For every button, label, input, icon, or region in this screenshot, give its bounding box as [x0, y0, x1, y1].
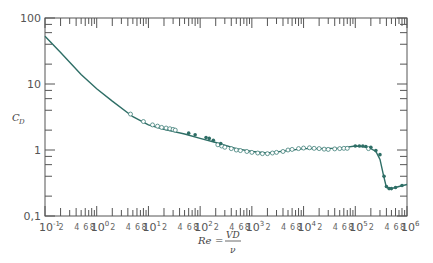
x-minor-tick-label: 6: [83, 223, 88, 232]
x-minor-tick-label: 4: [333, 223, 338, 232]
x-minor-tick-label: 4: [384, 223, 389, 232]
solid-data-point: [364, 145, 368, 149]
x-tick-label: 10-1: [39, 220, 60, 234]
open-data-point: [312, 146, 316, 150]
open-data-point: [245, 149, 249, 153]
open-data-point: [297, 147, 301, 151]
open-data-point: [260, 152, 264, 156]
x-minor-tick-label: 4: [178, 223, 183, 232]
open-data-point: [128, 112, 132, 116]
x-minor-tick-label: 4: [74, 223, 79, 232]
solid-data-point: [400, 184, 404, 188]
open-data-point: [156, 124, 160, 128]
x-minor-tick-label: 2: [317, 223, 322, 232]
y-tick-label: 10: [27, 78, 41, 91]
open-data-point: [256, 151, 260, 155]
x-minor-tick-label: 2: [369, 223, 374, 232]
open-data-point: [307, 146, 311, 150]
open-data-point: [302, 146, 306, 150]
plot-area: [45, 36, 407, 190]
x-tick-label: 103: [246, 220, 264, 234]
open-data-point: [275, 150, 279, 154]
x-tick-label: 106: [401, 220, 420, 234]
open-data-point: [333, 147, 337, 151]
x-tick-label: 104: [298, 220, 317, 234]
x-tick-label: 102: [194, 220, 212, 234]
open-data-point: [173, 128, 177, 132]
drag-curve: [45, 36, 407, 188]
x-tick-label: 100: [91, 220, 109, 234]
x-minor-tick-label: 4: [281, 223, 286, 232]
svg-text:VD: VD: [226, 230, 240, 240]
solid-data-point: [353, 144, 357, 148]
open-data-point: [322, 147, 326, 151]
solid-data-point: [390, 187, 394, 191]
y-tick-label: 0,1: [24, 210, 42, 223]
x-minor-tick-label: 2: [110, 223, 115, 232]
solid-data-point: [219, 142, 223, 146]
open-data-point: [290, 147, 294, 151]
solid-data-point: [382, 174, 386, 178]
open-data-point: [345, 146, 349, 150]
drag-coefficient-chart: 10-1246810024681012468102246810324681042…: [0, 0, 433, 263]
x-minor-tick-label: 6: [135, 223, 140, 232]
open-data-point: [234, 148, 238, 152]
solid-data-point: [187, 131, 191, 135]
open-data-point: [281, 149, 285, 153]
solid-data-point: [374, 149, 378, 153]
open-data-point: [250, 150, 254, 154]
x-minor-tick-label: 6: [187, 223, 192, 232]
solid-data-point: [378, 153, 382, 157]
x-minor-tick-label: 6: [342, 223, 347, 232]
solid-data-point: [212, 139, 216, 143]
plot-frame: [45, 18, 407, 216]
y-tick-label: 100: [20, 12, 41, 25]
open-data-point: [238, 149, 242, 153]
x-tick-label: 101: [142, 220, 160, 234]
y-tick-label: 1: [34, 144, 41, 157]
solid-data-point: [394, 186, 398, 190]
x-minor-tick-label: 6: [394, 223, 399, 232]
svg-text:D: D: [18, 118, 25, 126]
open-data-point: [223, 145, 227, 149]
open-data-point: [270, 151, 274, 155]
open-data-point: [286, 148, 290, 152]
solid-data-point: [204, 136, 208, 140]
solid-data-point: [369, 145, 373, 149]
x-minor-tick-label: 6: [290, 223, 295, 232]
svg-text:Re: Re: [197, 235, 212, 246]
y-axis-label: C D: [12, 112, 25, 126]
x-minor-tick-label: 2: [59, 223, 64, 232]
x-tick-label: 105: [349, 220, 367, 234]
open-data-point: [317, 147, 321, 151]
x-minor-tick-label: 4: [126, 223, 131, 232]
open-data-point: [338, 147, 342, 151]
open-data-point: [160, 125, 164, 129]
open-data-point: [229, 147, 233, 151]
solid-data-point: [358, 144, 362, 148]
svg-text:ν: ν: [230, 245, 236, 255]
open-data-point: [164, 126, 168, 130]
open-data-point: [141, 120, 145, 124]
solid-data-point: [193, 133, 197, 137]
open-data-point: [151, 123, 155, 127]
x-minor-tick-label: 2: [265, 223, 270, 232]
open-data-point: [265, 152, 269, 156]
x-minor-tick-label: 2: [162, 223, 167, 232]
solid-data-point: [207, 137, 211, 141]
svg-text:=: =: [215, 235, 223, 246]
axes: 10-1246810024681012468102246810324681042…: [20, 12, 420, 234]
solid-data-point: [361, 144, 365, 148]
x-minor-tick-label: 2: [214, 223, 219, 232]
open-data-point: [326, 147, 330, 151]
